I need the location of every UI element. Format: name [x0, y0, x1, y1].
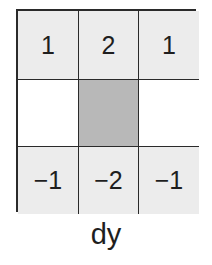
kernel-cell: 2: [79, 11, 139, 80]
kernel-cell: −1: [18, 147, 79, 214]
kernel-cell: −2: [79, 147, 139, 214]
kernel-cell: [139, 80, 199, 147]
kernel-cell: 1: [139, 11, 199, 80]
kernel-center-cell: [79, 80, 139, 147]
kernel-cell: 1: [18, 11, 79, 80]
kernel-cell: −1: [139, 147, 199, 214]
kernel-grid: 1 2 1 −1 −2 −1: [16, 9, 196, 212]
kernel-cell: [18, 80, 79, 147]
kernel-caption: dy: [0, 218, 212, 251]
